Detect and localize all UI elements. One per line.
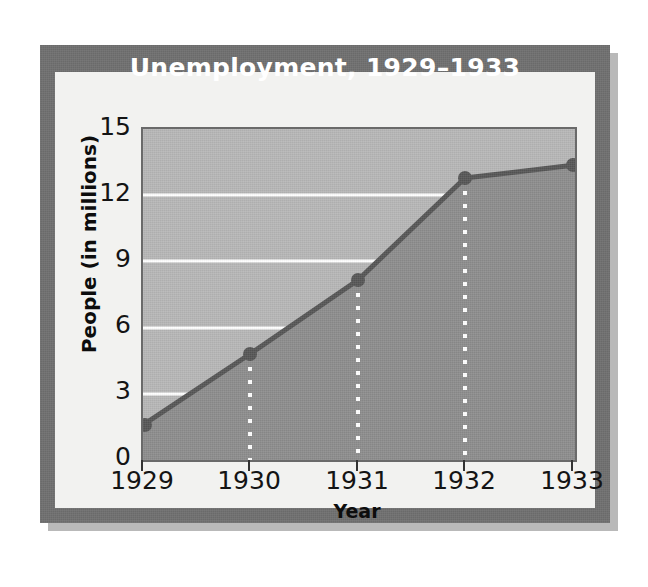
data-point-1932 bbox=[458, 171, 472, 185]
y-tick-label-3: 3 bbox=[91, 378, 131, 403]
unemployment-chart-figure: Unemployment, 1929–1933 15 12 9 6 3 0 Pe… bbox=[0, 0, 648, 587]
x-tick-label-1929: 1929 bbox=[96, 468, 188, 493]
y-axis-title: People (in millions) bbox=[77, 114, 101, 374]
x-axis-tick-labels: 1929 1930 1931 1932 1933 bbox=[55, 468, 595, 502]
area-fill bbox=[143, 165, 575, 460]
data-point-1931 bbox=[351, 273, 365, 287]
figure-frame: Unemployment, 1929–1933 15 12 9 6 3 0 Pe… bbox=[40, 45, 610, 523]
chart-panel: 15 12 9 6 3 0 People (in millions) bbox=[55, 72, 595, 508]
x-tick-label-1931: 1931 bbox=[311, 468, 403, 493]
x-axis-title: Year bbox=[141, 500, 573, 522]
data-point-1930 bbox=[243, 347, 257, 361]
x-tick-label-1930: 1930 bbox=[203, 468, 295, 493]
chart-title: Unemployment, 1929–1933 bbox=[40, 53, 610, 82]
x-tick-label-1932: 1932 bbox=[418, 468, 510, 493]
plot-area bbox=[141, 127, 577, 462]
plot-graphics bbox=[143, 129, 575, 460]
x-tick-label-1933: 1933 bbox=[526, 468, 618, 493]
